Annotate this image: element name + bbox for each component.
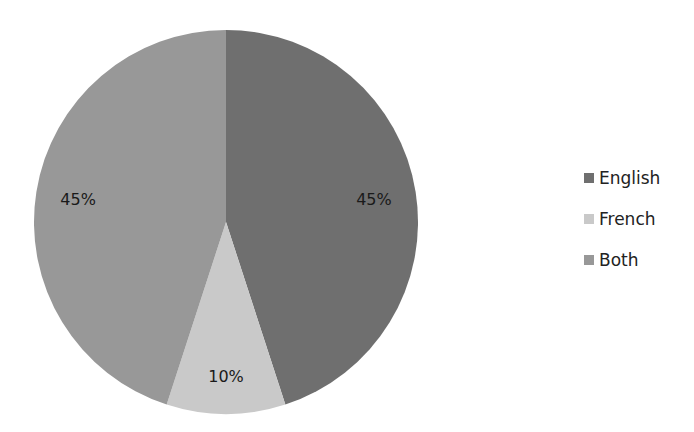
legend-label-french: French	[599, 209, 656, 229]
slice-label-both: 45%	[60, 190, 96, 209]
legend-item-french: French	[584, 209, 660, 229]
legend-label-english: English	[599, 168, 660, 188]
legend: English French Both	[584, 168, 660, 291]
pie-slices	[34, 30, 418, 414]
slice-label-french: 10%	[208, 367, 244, 386]
legend-item-english: English	[584, 168, 660, 188]
legend-label-both: Both	[599, 250, 639, 270]
legend-swatch-english	[584, 173, 594, 183]
legend-swatch-both	[584, 255, 594, 265]
legend-swatch-french	[584, 214, 594, 224]
slice-label-english: 45%	[356, 190, 392, 209]
legend-item-both: Both	[584, 250, 660, 270]
